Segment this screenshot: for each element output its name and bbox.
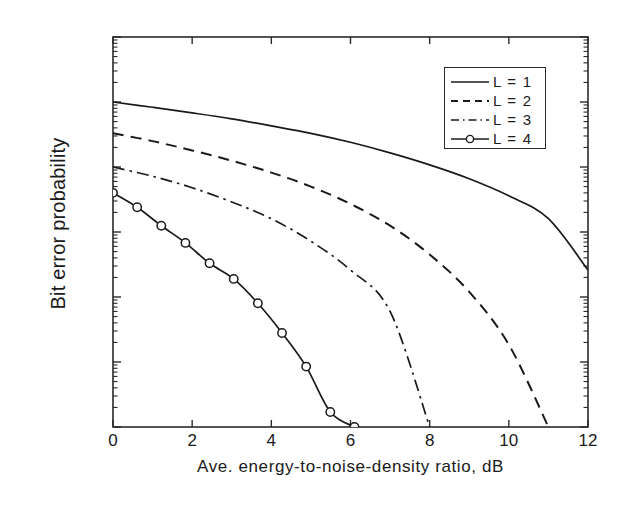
legend-label: L = 1 — [493, 73, 532, 90]
series-marker — [109, 189, 117, 197]
legend-item-1: L = 1 — [445, 72, 545, 91]
legend-line-sample — [449, 113, 491, 127]
series-line-L=4 — [113, 193, 354, 427]
legend-label: L = 2 — [493, 92, 532, 109]
series-2 — [113, 133, 548, 427]
series-marker — [181, 239, 189, 247]
legend-line-sample — [449, 75, 491, 89]
series-4 — [109, 189, 359, 432]
legend-line-sample — [449, 132, 491, 146]
series-marker — [133, 203, 141, 211]
series-marker — [278, 329, 286, 337]
series-marker — [350, 423, 358, 431]
legend-item-4: L = 4 — [445, 129, 545, 148]
legend-item-2: L = 2 — [445, 91, 545, 110]
series-marker — [230, 275, 238, 283]
legend-marker — [466, 135, 473, 142]
series-marker — [254, 299, 262, 307]
legend-label: L = 4 — [493, 130, 532, 147]
series-marker — [326, 408, 334, 416]
chart-figure: Bit error probability 10010-110-210-310-… — [0, 0, 626, 508]
legend-label: L = 3 — [493, 111, 532, 128]
legend-item-3: L = 3 — [445, 110, 545, 129]
legend-line-sample — [449, 94, 491, 108]
series-line-L=2 — [113, 133, 548, 427]
series-marker — [205, 259, 213, 267]
series-marker — [302, 362, 310, 370]
series-3 — [113, 167, 430, 427]
series-group — [109, 102, 588, 431]
series-marker — [157, 222, 165, 230]
series-line-L=3 — [113, 167, 430, 427]
chart-legend: L = 1L = 2L = 3L = 4 — [444, 67, 546, 149]
